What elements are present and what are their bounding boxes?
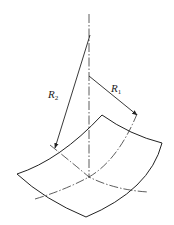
label-r2: R2	[47, 88, 59, 102]
radius-r2-arrow	[55, 35, 90, 148]
saddle-surface-diagram: R2 R1	[0, 0, 174, 225]
label-r1: R1	[110, 82, 122, 96]
principal-curve-2	[35, 114, 137, 199]
principal-curve-1	[50, 145, 148, 192]
surface-outline	[17, 115, 162, 217]
